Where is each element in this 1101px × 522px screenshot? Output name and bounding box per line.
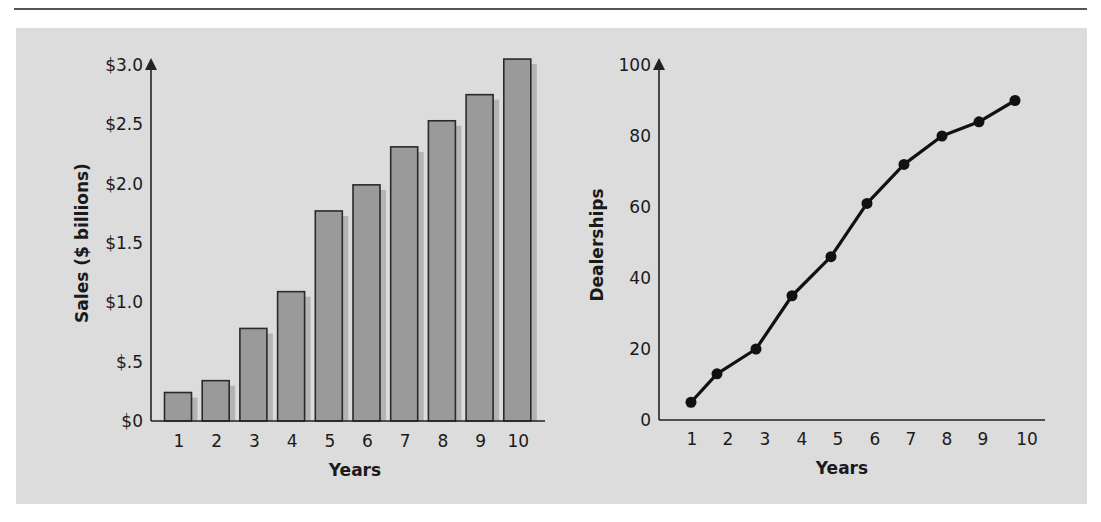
data-point (686, 397, 697, 408)
x-tick-label: 2 (723, 429, 734, 449)
data-point (712, 368, 723, 379)
dealerships-line-chart: 02040608010012345678910YearsDealerships (587, 55, 1045, 478)
data-point (974, 116, 985, 127)
x-tick-label: 8 (942, 429, 953, 449)
bar (240, 328, 267, 421)
x-tick-label: 6 (870, 429, 881, 449)
bar (202, 381, 229, 421)
bar (504, 59, 531, 421)
x-tick-label: 6 (362, 431, 373, 451)
charts-canvas: $0$.5$1.0$1.5$2.0$2.5$3.012345678910Year… (0, 0, 1101, 522)
data-point (787, 290, 798, 301)
y-tick-label: $.5 (116, 352, 143, 372)
y-tick-label: 40 (629, 268, 651, 288)
sales-bar-chart: $0$.5$1.0$1.5$2.0$2.5$3.012345678910Year… (72, 55, 545, 480)
x-tick-label: 1 (687, 429, 698, 449)
y-tick-label: $0 (121, 411, 143, 431)
x-tick-label: 10 (507, 431, 529, 451)
x-tick-label: 7 (400, 431, 411, 451)
dealerships-line (691, 101, 1015, 403)
x-tick-label: 5 (833, 429, 844, 449)
y-tick-label: 100 (619, 55, 651, 75)
y-tick-label: $1.0 (105, 292, 143, 312)
y-axis-label: Dealerships (587, 188, 607, 301)
y-tick-label: 80 (629, 126, 651, 146)
x-tick-label: 9 (978, 429, 989, 449)
y-tick-label: $3.0 (105, 55, 143, 75)
y-tick-label: 60 (629, 197, 651, 217)
bar (353, 185, 380, 421)
y-tick-label: $2.5 (105, 114, 143, 134)
y-tick-label: 20 (629, 339, 651, 359)
x-tick-label: 8 (437, 431, 448, 451)
x-tick-label: 4 (287, 431, 298, 451)
x-axis-label: Years (328, 460, 381, 480)
x-tick-label: 3 (249, 431, 260, 451)
bar (428, 121, 455, 421)
y-axis-arrow-icon (145, 58, 157, 70)
x-tick-label: 1 (174, 431, 185, 451)
x-tick-label: 7 (906, 429, 917, 449)
data-point (751, 344, 762, 355)
y-tick-label: $2.0 (105, 174, 143, 194)
x-tick-label: 4 (797, 429, 808, 449)
bar (391, 147, 418, 421)
data-point (826, 251, 837, 262)
y-axis-label: Sales ($ billions) (72, 163, 92, 323)
data-point (1010, 95, 1021, 106)
x-tick-label: 5 (324, 431, 335, 451)
bar (165, 393, 192, 421)
bar (278, 292, 305, 421)
x-tick-label: 3 (760, 429, 771, 449)
x-tick-label: 2 (211, 431, 222, 451)
y-tick-label: 0 (640, 410, 651, 430)
x-axis-label: Years (815, 458, 868, 478)
y-axis-arrow-icon (653, 58, 665, 70)
x-tick-label: 9 (475, 431, 486, 451)
data-point (937, 131, 948, 142)
data-point (862, 198, 873, 209)
x-tick-label: 10 (1016, 429, 1038, 449)
bar (315, 211, 342, 421)
data-point (899, 159, 910, 170)
y-tick-label: $1.5 (105, 233, 143, 253)
bar (466, 95, 493, 421)
